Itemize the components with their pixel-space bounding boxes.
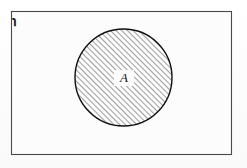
venn-diagram-figure: ℩ A: [0, 0, 247, 168]
set-a-label: A: [114, 70, 134, 86]
universal-set-label: ℩: [12, 14, 17, 28]
